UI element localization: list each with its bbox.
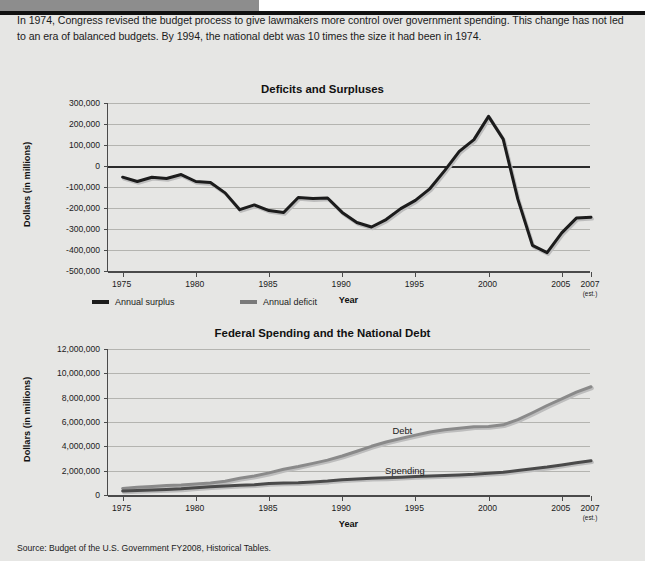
x-tick-mark [489, 272, 490, 277]
x-tick-mark [415, 272, 416, 277]
x-tick-label: 1980 [185, 279, 204, 289]
y-tick-label: 100,000 [69, 140, 100, 150]
x-tick-label: 1975 [112, 503, 131, 513]
x-tick-mark [591, 496, 592, 501]
plot-area [107, 349, 590, 495]
y-axis-label: Dollars (in millions) [22, 142, 32, 227]
x-axis-line [108, 495, 590, 497]
y-tick-label: 300,000 [69, 98, 100, 108]
series-line-deficits-and-surpluses [123, 116, 591, 252]
legend-swatch-icon [240, 300, 257, 304]
legend-label: Annual deficit [263, 297, 317, 307]
y-tick-label: 4,000,000 [62, 441, 100, 451]
chart-title: Federal Spending and the National Debt [0, 327, 645, 339]
page-footer-strip [0, 561, 645, 583]
series-shadow [124, 388, 592, 490]
x-tick-label: 1995 [405, 279, 424, 289]
x-tick-mark [562, 272, 563, 277]
legend-item: Annual deficit [240, 297, 317, 307]
y-tick-label: 0 [95, 161, 100, 171]
x-tick-mark [123, 496, 124, 501]
y-tick-label: -300,000 [66, 224, 100, 234]
x-tick-label: 2000 [478, 503, 497, 513]
x-tick-mark [489, 496, 490, 501]
x-tick-mark [591, 272, 592, 277]
x-tick-label: 2007 [580, 279, 599, 289]
x-axis-line [108, 271, 590, 273]
x-tick-label: 1980 [185, 503, 204, 513]
x-tick-label: 2005 [551, 279, 570, 289]
x-tick-label: 1990 [332, 503, 351, 513]
y-tick-label: 8,000,000 [62, 393, 100, 403]
y-tick-label: -100,000 [66, 182, 100, 192]
y-tick-label: -400,000 [66, 245, 100, 255]
page-root: In 1974, Congress revised the budget pro… [0, 0, 645, 583]
plot-area [107, 103, 590, 271]
legend-swatch-icon [92, 300, 109, 304]
x-tick-label: 2005 [551, 503, 570, 513]
x-tick-label: 2000 [478, 279, 497, 289]
x-tick-mark [196, 272, 197, 277]
x-tick-mark [196, 496, 197, 501]
y-tick-label: 12,000,000 [57, 344, 100, 354]
header-band-right [259, 0, 645, 11]
x-tick-label: 2007 [580, 503, 599, 513]
x-axis-label: Year [107, 519, 590, 529]
legend-item: Annual surplus [92, 297, 175, 307]
x-tick-mark [415, 496, 416, 501]
intro-paragraph: In 1974, Congress revised the budget pro… [17, 12, 625, 44]
chart-deficits-and-surpluses: Deficits and Surpluses Dollars (in milli… [0, 83, 645, 308]
x-tick-mark [342, 496, 343, 501]
chart-title: Deficits and Surpluses [0, 83, 645, 95]
x-tick-label: 1995 [405, 503, 424, 513]
chart-federal-spending-and-national-debt: Federal Spending and the National Debt D… [0, 327, 645, 542]
x-tick-sublabel: (est.) [583, 514, 598, 521]
series-label-spending: Spending [385, 465, 425, 476]
x-tick-label: 1975 [112, 279, 131, 289]
x-tick-mark [269, 272, 270, 277]
x-tick-label: 1985 [258, 279, 277, 289]
y-tick-label: 0 [95, 490, 100, 500]
header-band [0, 0, 259, 11]
y-tick-label: 6,000,000 [62, 417, 100, 427]
source-note: Source: Budget of the U.S. Government FY… [17, 543, 271, 553]
series-layer [108, 103, 591, 271]
series-label-debt: Debt [392, 425, 412, 436]
series-layer [108, 349, 591, 495]
y-tick-label: 2,000,000 [62, 466, 100, 476]
x-tick-mark [562, 496, 563, 501]
y-tick-label: -500,000 [66, 266, 100, 276]
x-tick-mark [269, 496, 270, 501]
y-tick-label: 200,000 [69, 119, 100, 129]
x-tick-mark [123, 272, 124, 277]
x-tick-mark [342, 272, 343, 277]
x-tick-sublabel: (est.) [583, 290, 598, 297]
y-tick-label: -200,000 [66, 203, 100, 213]
x-tick-label: 1990 [332, 279, 351, 289]
legend-label: Annual surplus [115, 297, 175, 307]
y-axis-label: Dollars (in millions) [22, 377, 32, 462]
y-tick-label: 10,000,000 [57, 368, 100, 378]
series-shadow [124, 118, 592, 254]
x-tick-label: 1985 [258, 503, 277, 513]
chart-legend: Annual surplusAnnual deficit [92, 297, 392, 313]
